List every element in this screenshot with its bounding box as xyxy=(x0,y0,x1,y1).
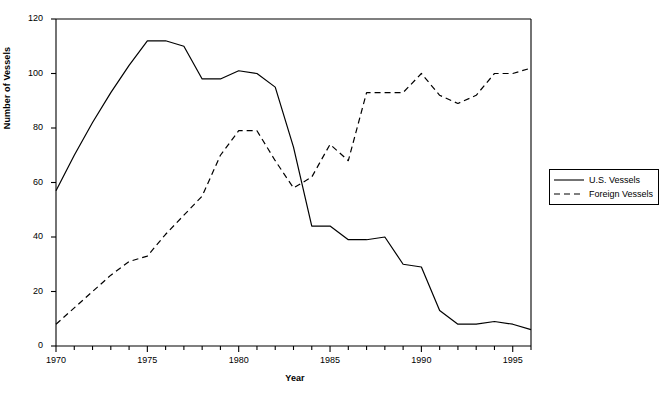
x-tick-label: 1975 xyxy=(127,355,167,365)
y-tick-label: 20 xyxy=(13,286,43,296)
legend-dashed-line-icon xyxy=(554,189,584,199)
x-tick-label: 1990 xyxy=(401,355,441,365)
legend-label-foreign-vessels: Foreign Vessels xyxy=(589,189,653,199)
chart-figure: Number of Vessels Year 020406080100120 1… xyxy=(0,0,671,401)
y-tick-label: 120 xyxy=(13,13,43,23)
legend-item-foreign-vessels: Foreign Vessels xyxy=(554,187,653,201)
x-tick-label: 1980 xyxy=(219,355,259,365)
x-tick-label: 1985 xyxy=(310,355,350,365)
y-tick-label: 80 xyxy=(13,122,43,132)
y-tick-label: 40 xyxy=(13,231,43,241)
x-tick-label: 1995 xyxy=(493,355,533,365)
series-line-u-s-vessels xyxy=(56,41,531,330)
chart-legend: U.S. Vessels Foreign Vessels xyxy=(549,169,659,205)
legend-label-us-vessels: U.S. Vessels xyxy=(589,175,640,185)
axes xyxy=(51,19,531,352)
y-tick-label: 0 xyxy=(13,340,43,350)
data-series xyxy=(56,41,531,330)
legend-solid-line-icon xyxy=(554,175,584,185)
legend-item-us-vessels: U.S. Vessels xyxy=(554,173,653,187)
y-tick-label: 60 xyxy=(13,177,43,187)
y-tick-label: 100 xyxy=(13,68,43,78)
series-line-foreign-vessels xyxy=(56,68,531,324)
x-tick-label: 1970 xyxy=(36,355,76,365)
